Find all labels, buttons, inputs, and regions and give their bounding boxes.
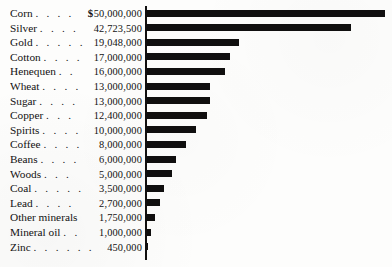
chart-row: Sugar . . . .13,000,000 (0, 94, 392, 109)
value-number: 17,000,000 (94, 52, 142, 63)
row-value-label: 6,000,000 (74, 152, 142, 167)
row-value-label: 1,000,000 (74, 225, 142, 240)
bar-track (146, 64, 390, 79)
bar-track (146, 137, 390, 152)
value-number: 1,750,000 (99, 212, 142, 223)
leader-dots: . . . . (40, 22, 79, 34)
row-value-label: 12,400,000 (74, 108, 142, 123)
row-value-label: 13,000,000 (74, 94, 142, 109)
value-number: 13,000,000 (94, 96, 142, 107)
chart-row: Zinc . . . . . .450,000 (0, 240, 392, 255)
bar (146, 10, 385, 17)
bar-track (146, 240, 390, 255)
row-value-label: 450,000 (74, 240, 142, 255)
bar-track (146, 108, 390, 123)
category-name: Mineral oil (10, 226, 61, 238)
chart-row: Cotton . . . .17,000,000 (0, 50, 392, 65)
currency-symbol: $ (88, 7, 94, 19)
bar-track (146, 225, 390, 240)
bar (146, 83, 210, 90)
bar-track (146, 123, 390, 138)
category-name: Coal (10, 182, 31, 194)
leader-dots: . . . (44, 168, 72, 180)
bar (146, 24, 351, 31)
value-number: 3,500,000 (99, 183, 142, 194)
bar (146, 214, 155, 221)
category-name: Woods (10, 168, 41, 180)
bar (146, 39, 239, 46)
row-value-label: 13,000,000 (74, 79, 142, 94)
bar-track (146, 21, 390, 36)
bar-track (146, 181, 390, 196)
category-name: Gold (10, 36, 33, 48)
bar (146, 156, 176, 163)
leader-dots: . . . . (35, 7, 74, 19)
bar-track (146, 50, 390, 65)
bar-track (146, 35, 390, 50)
category-name: Spirits (10, 124, 40, 136)
category-name: Copper (10, 109, 43, 121)
category-name: Henequen (10, 65, 56, 77)
row-value-label: 19,048,000 (74, 35, 142, 50)
category-name: Wheat (10, 80, 39, 92)
chart-row: Other minerals1,750,000 (0, 210, 392, 225)
row-value-label: 10,000,000 (74, 123, 142, 138)
leader-dots: . . . . (35, 197, 74, 209)
leader-dots: . . (59, 65, 76, 77)
value-number: 8,000,000 (99, 139, 142, 150)
bar (146, 97, 210, 104)
row-value-label: 8,000,000 (74, 137, 142, 152)
chart-row: Coal . . . . .3,500,000 (0, 181, 392, 196)
category-name: Cotton (10, 51, 41, 63)
bar (146, 199, 160, 206)
leader-dots: . . . . (39, 95, 78, 107)
bar-track (146, 196, 390, 211)
value-number: 50,000,000 (94, 8, 142, 19)
row-value-label: 17,000,000 (74, 50, 142, 65)
bar (146, 141, 186, 148)
category-name: Zinc (10, 241, 31, 253)
row-value-label: 42,723,500 (74, 21, 142, 36)
value-number: 13,000,000 (94, 81, 142, 92)
chart-row: Woods . . .5,000,000 (0, 167, 392, 182)
category-name: Corn (10, 7, 33, 19)
chart-row: Beans . . . .6,000,000 (0, 152, 392, 167)
value-number: 10,000,000 (94, 125, 142, 136)
category-name: Beans (10, 153, 38, 165)
value-number: 1,000,000 (99, 227, 142, 238)
value-number: 16,000,000 (94, 66, 142, 77)
value-number: 19,048,000 (94, 37, 142, 48)
bar-chart-figure: Corn . . . .$50,000,000Silver . . . .42,… (0, 0, 392, 267)
value-number: 6,000,000 (99, 154, 142, 165)
category-name: Silver (10, 22, 37, 34)
bar (146, 126, 196, 133)
category-name: Sugar (10, 95, 36, 107)
bar (146, 170, 172, 177)
chart-row: Copper . . .12,400,000 (0, 108, 392, 123)
category-name: Lead (10, 197, 33, 209)
bar-track (146, 6, 390, 21)
value-number: 12,400,000 (94, 110, 142, 121)
row-value-label: 2,700,000 (74, 196, 142, 211)
row-value-label: 5,000,000 (74, 167, 142, 182)
row-value-label: $50,000,000 (70, 6, 142, 21)
bar-track (146, 79, 390, 94)
chart-row: Henequen . .16,000,000 (0, 64, 392, 79)
chart-rows-container: Corn . . . .$50,000,000Silver . . . .42,… (0, 0, 392, 267)
bar-track (146, 167, 390, 182)
chart-row: Gold . . . . .19,048,000 (0, 35, 392, 50)
row-value-label: 3,500,000 (74, 181, 142, 196)
bar-track (146, 94, 390, 109)
chart-row: Mineral oil . .1,000,000 (0, 225, 392, 240)
chart-row: Wheat . . . .13,000,000 (0, 79, 392, 94)
chart-row: Silver . . . .42,723,500 (0, 21, 392, 36)
category-name: Other minerals (10, 211, 77, 223)
bar (146, 185, 164, 192)
value-number: 5,000,000 (99, 169, 142, 180)
bar-track (146, 152, 390, 167)
chart-row: Coffee . . . .8,000,000 (0, 137, 392, 152)
value-number: 2,700,000 (99, 198, 142, 209)
chart-row: Spirits . . . .10,000,000 (0, 123, 392, 138)
row-value-label: 1,750,000 (74, 210, 142, 225)
bar (146, 229, 151, 236)
